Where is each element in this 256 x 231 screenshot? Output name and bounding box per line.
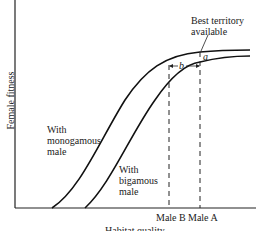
monogamous-label-line3: male [47, 146, 66, 157]
bigamous-label-line1: With [119, 164, 139, 175]
bigamous-curve [85, 56, 250, 208]
male-a-label: Male A [188, 212, 218, 223]
a-label: a [203, 51, 208, 62]
male-b-label: Male B [156, 212, 186, 223]
monogamous-label-line1: With [47, 124, 67, 135]
bigamous-label-line2: bigamous [119, 175, 158, 186]
b-arrowhead-right [196, 64, 200, 68]
best-territory-label-line1: Best territory [191, 15, 244, 26]
best-territory-pointer [201, 35, 208, 51]
y-axis-label: Female fitness [5, 61, 16, 141]
best-territory-label-line2: available [191, 26, 227, 37]
x-axis-label: Habitat quality [105, 225, 165, 231]
bigamous-label-line3: male [119, 186, 138, 197]
b-arrowhead-left [169, 64, 173, 68]
monogamous-label-line2: monogamous [47, 135, 101, 146]
b-label: b [179, 60, 184, 71]
